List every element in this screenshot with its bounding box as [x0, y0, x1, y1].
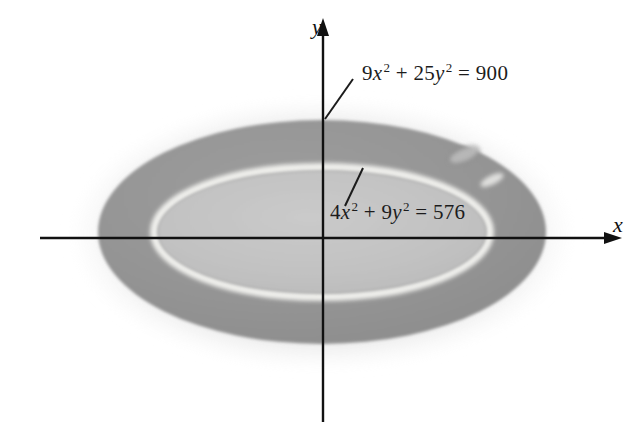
outer-eq-coeff-y: 25	[414, 61, 436, 85]
inner-eq-coeff-x: 4	[330, 200, 341, 224]
inner-ellipse-equation-label: 4x2 + 9y2 = 576	[330, 199, 465, 225]
outer-eq-var-y: y	[435, 61, 445, 85]
outer-eq-var-x: x	[373, 61, 383, 85]
ellipse-region-figure: 9x2 + 25y2 = 900 4x2 + 9y2 = 576 y x	[0, 0, 644, 438]
inner-eq-exp-y: 2	[402, 199, 409, 214]
inner-eq-coeff-y: 9	[382, 200, 393, 224]
x-axis-label: x	[613, 212, 623, 238]
y-axis-label: y	[312, 14, 322, 40]
outer-ellipse-equation-label: 9x2 + 25y2 = 900	[362, 60, 508, 86]
figure-canvas	[0, 0, 644, 438]
outer-eq-plus: +	[390, 61, 413, 85]
outer-eq-exp-y: 2	[445, 60, 452, 75]
outer-eq-coeff-x: 9	[362, 61, 373, 85]
inner-eq-var-y: y	[392, 200, 402, 224]
inner-eq-var-x: x	[341, 200, 351, 224]
inner-eq-equals: =	[410, 200, 433, 224]
outer-eq-value: 900	[476, 61, 508, 85]
inner-eq-plus: +	[358, 200, 381, 224]
outer-eq-equals: =	[453, 61, 476, 85]
inner-eq-value: 576	[433, 200, 465, 224]
